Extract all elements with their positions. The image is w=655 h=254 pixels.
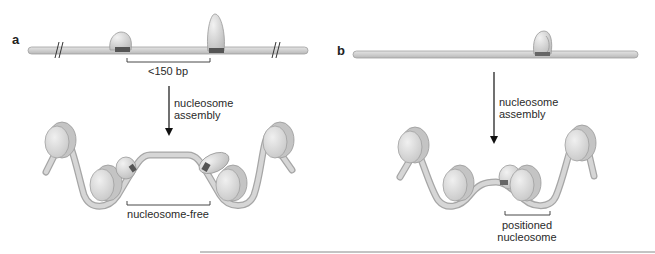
dna-binding-protein (116, 157, 137, 179)
nucleosome (216, 165, 247, 201)
nucleosome (398, 127, 429, 163)
arrowhead-icon (165, 128, 173, 136)
panel-b: b nucleosome assembly (337, 31, 638, 243)
nucleosome (45, 122, 76, 158)
arrow-label-line2: assembly (174, 109, 221, 121)
distance-label: <150 bp (148, 65, 188, 77)
dna-binding-protein (533, 31, 551, 56)
nucleosome-free-label: nucleosome-free (127, 208, 209, 220)
dna-strand (353, 51, 638, 58)
arrow-label-line1: nucleosome (174, 97, 233, 109)
nucleosome-free-bracket (127, 201, 210, 205)
nucleosome (263, 122, 294, 158)
nucleosome-diagram: a <150 bp nucleosome assembly (0, 0, 655, 254)
positioned-label-line1: positioned (502, 219, 552, 231)
dna-binding-protein (110, 32, 132, 52)
nucleosome (565, 125, 596, 161)
panel-a: a <150 bp nucleosome assembly (12, 14, 308, 220)
arrow-label-line2: assembly (499, 108, 546, 120)
positioned-nucleosome-bracket (505, 211, 550, 215)
positioned-label-line2: nucleosome (497, 231, 556, 243)
nucleosome (443, 165, 474, 201)
arrowhead-icon (490, 136, 498, 144)
arrow-label-line1: nucleosome (499, 96, 558, 108)
dna-binding-protein (207, 14, 224, 53)
panel-a-letter: a (12, 32, 20, 47)
chromatin-fiber (46, 132, 292, 206)
distance-bracket (127, 58, 210, 62)
dna-strand (28, 47, 308, 54)
panel-b-letter: b (337, 43, 345, 58)
